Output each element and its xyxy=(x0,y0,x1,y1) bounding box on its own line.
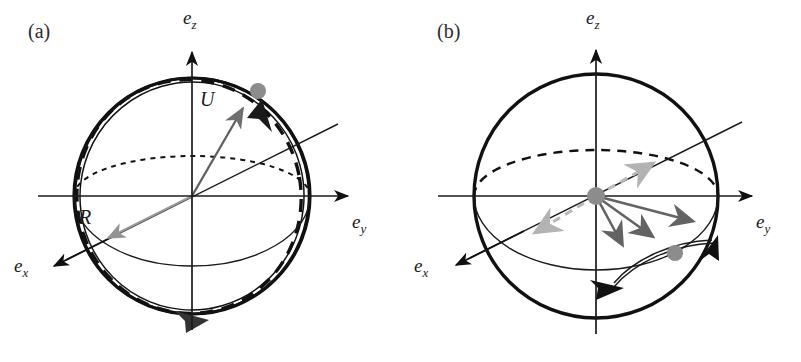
rotation-axis-arrow-ex xyxy=(456,231,524,265)
figure-container: (a) ez ey ex U R xyxy=(0,0,801,362)
axis-label-ey: ey xyxy=(756,211,770,236)
vector-U xyxy=(192,108,243,196)
trajectory-arrowhead-left xyxy=(590,280,624,300)
panel-b-svg: (b) ez ey ex xyxy=(400,0,801,362)
center-dot xyxy=(587,187,605,205)
vector-label-U: U xyxy=(200,88,216,110)
axis-label-ey: ey xyxy=(352,211,366,236)
fan-vector-3 xyxy=(596,196,692,221)
axis-label-ex: ex xyxy=(414,255,428,280)
panel-a: (a) ez ey ex U R xyxy=(0,0,400,362)
axis-label-ex: ex xyxy=(14,255,28,280)
panel-a-svg: (a) ez ey ex U R xyxy=(0,0,400,362)
vector-label-R: R xyxy=(78,206,91,228)
panel-label-b: (b) xyxy=(437,20,460,43)
panel-b: (b) ez ey ex xyxy=(400,0,801,362)
panel-label-a: (a) xyxy=(28,20,50,43)
dashed-vector-down-left xyxy=(536,196,596,232)
state-dot xyxy=(250,83,266,99)
vector-R xyxy=(108,196,192,238)
axis-label-ez: ez xyxy=(586,7,600,32)
state-dot xyxy=(667,245,683,261)
axis-label-ez: ez xyxy=(183,7,197,32)
